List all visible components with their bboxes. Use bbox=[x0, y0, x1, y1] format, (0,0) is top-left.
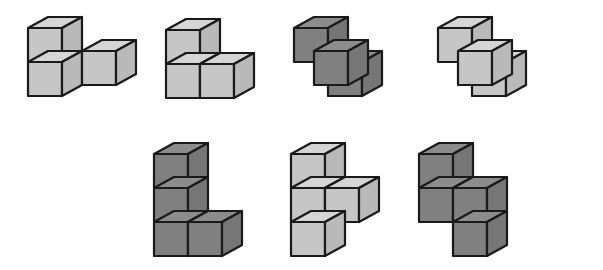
cube-face-front bbox=[314, 51, 348, 85]
cube bbox=[291, 211, 345, 256]
figures-canvas bbox=[0, 0, 603, 270]
cube bbox=[458, 40, 512, 85]
cube-face-front bbox=[82, 51, 116, 85]
cube bbox=[314, 40, 368, 85]
cube-face-front bbox=[453, 222, 487, 256]
cube-figure-7 bbox=[413, 148, 603, 270]
cube bbox=[82, 40, 136, 85]
cube-face-front bbox=[291, 222, 325, 256]
cube-face-front bbox=[200, 64, 234, 98]
cube bbox=[28, 51, 82, 96]
cube-face-front bbox=[28, 62, 62, 96]
cube-face-front bbox=[458, 51, 492, 85]
cube-face-front bbox=[419, 188, 453, 222]
cube bbox=[453, 211, 507, 256]
cube-face-front bbox=[188, 222, 222, 256]
cube bbox=[188, 211, 242, 256]
cube-face-front bbox=[154, 222, 188, 256]
cube bbox=[200, 53, 254, 98]
cube-face-front bbox=[166, 64, 200, 98]
